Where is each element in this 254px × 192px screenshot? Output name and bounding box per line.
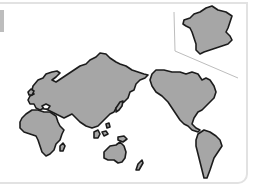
region-british-isles <box>28 89 34 95</box>
region-southeast-asia-islands <box>94 130 100 138</box>
region-africa <box>20 110 64 156</box>
map-figure <box>0 0 254 192</box>
region-black-sea <box>42 104 50 109</box>
world-map <box>0 0 254 192</box>
region-southeast-asia-islands <box>102 131 108 136</box>
region-madagascar <box>60 143 65 151</box>
region-north-america <box>150 70 216 132</box>
region-south-america <box>196 130 222 178</box>
region-australia <box>104 142 126 163</box>
region-southeast-asia-islands <box>118 136 127 142</box>
region-southeast-asia-islands <box>106 123 110 128</box>
inset-france <box>183 6 232 54</box>
region-new-zealand <box>136 160 143 170</box>
